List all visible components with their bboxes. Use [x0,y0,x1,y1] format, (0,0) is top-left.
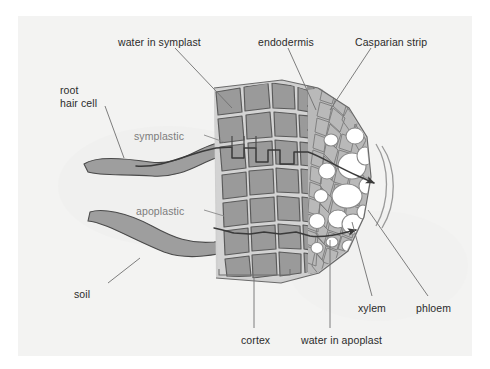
label-xylem: xylem [358,302,386,314]
label-water-in-symplast: water in symplast [118,36,201,48]
label-endodermis: endodermis [258,36,314,48]
root-cross-section-illustration [18,16,472,356]
diagram-panel [18,16,472,356]
label-casparian-strip: Casparian strip [355,36,427,48]
label-apoplastic: apoplastic [136,205,184,217]
label-cortex: cortex [241,334,270,346]
figure-canvas: water in symplast endodermis Casparian s… [0,0,490,369]
label-water-in-apoplast: water in apoplast [301,334,382,346]
label-soil: soil [74,288,90,300]
label-phloem: phloem [416,302,451,314]
label-root-hair-cell: root hair cell [60,84,97,109]
cortex-tissue [208,76,314,288]
label-symplastic: symplastic [134,130,184,142]
